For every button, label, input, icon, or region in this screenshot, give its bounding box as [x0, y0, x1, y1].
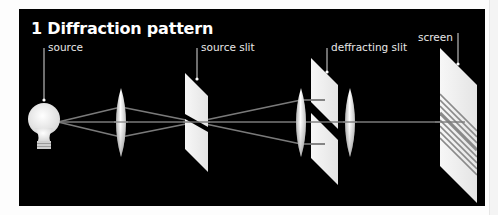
light-bulb-icon: [28, 103, 60, 149]
fringe-screen-icon: [435, 48, 477, 203]
label-source-slit: source slit: [201, 41, 255, 53]
label-diffracting-slit: deffracting slit: [331, 41, 407, 53]
convex-lens-icon: [296, 88, 306, 157]
convex-lens-icon: [343, 88, 357, 157]
convex-lens-icon: [114, 88, 128, 157]
label-source: source: [48, 41, 83, 53]
page-edge: [489, 0, 498, 215]
single-slit-icon: [183, 73, 210, 172]
label-screen: screen: [418, 31, 453, 43]
double-slit-icon: [310, 58, 338, 185]
figure-title: 1 Diffraction pattern: [31, 19, 213, 38]
